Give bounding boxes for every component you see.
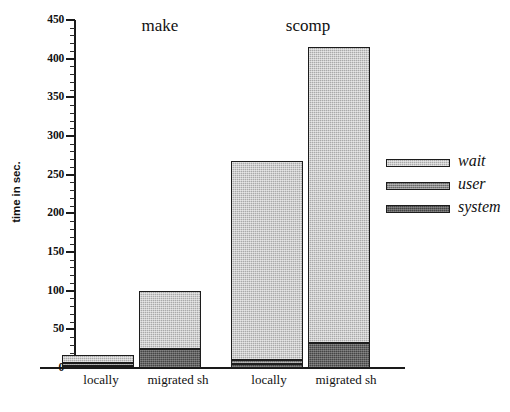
y-tick-major	[66, 96, 75, 98]
legend-label-user: user	[458, 175, 486, 193]
bar-scomp-migrated-sh	[308, 47, 370, 368]
bar-segment-wait	[139, 291, 201, 350]
bar-segment-system	[139, 349, 201, 368]
y-axis-title: time in sec.	[10, 132, 22, 252]
y-tick-label: 100	[34, 284, 64, 296]
bar-scomp-locally	[231, 161, 303, 368]
y-tick-label-wrap: 100	[30, 284, 64, 298]
bar-segment-wait	[62, 355, 134, 364]
y-tick-major	[66, 251, 75, 253]
bar-segment-system	[308, 343, 370, 368]
stacked-bar-chart: time in sec. 450400350300250200150100500…	[0, 0, 510, 412]
y-tick-label-wrap: 0	[30, 361, 64, 375]
y-tick-label-wrap: 250	[30, 168, 64, 182]
y-tick-label: 450	[34, 13, 64, 25]
legend-swatch-wait-icon	[386, 159, 450, 167]
bar-segment-wait	[231, 161, 303, 360]
y-tick-label-wrap: 300	[30, 129, 64, 143]
bar-segment-system	[62, 366, 134, 368]
bar-segment-wait	[308, 47, 370, 343]
bar-segment-user	[62, 363, 134, 365]
y-tick-label: 300	[34, 129, 64, 141]
y-tick-label-wrap: 150	[30, 245, 64, 259]
y-tick-label-wrap: 450	[30, 13, 64, 27]
y-tick-label-wrap: 200	[30, 206, 64, 220]
plot-area	[75, 20, 360, 368]
bar-segment-user	[231, 360, 303, 365]
y-tick-major	[66, 174, 75, 176]
y-tick-major	[66, 135, 75, 137]
legend-label-system: system	[458, 198, 501, 216]
y-tick-label: 350	[34, 90, 64, 102]
y-tick-label: 150	[34, 245, 64, 257]
legend-swatch-system-icon	[386, 205, 450, 213]
x-axis-label-make-locally: locally	[61, 372, 141, 388]
y-tick-label: 0	[34, 361, 64, 373]
y-tick-major	[66, 58, 75, 60]
bar-make-locally	[62, 355, 134, 368]
y-tick-major	[66, 212, 75, 214]
y-tick-label-wrap: 400	[30, 52, 64, 66]
y-tick-label: 400	[34, 52, 64, 64]
y-tick-major	[66, 290, 75, 292]
y-tick-label-wrap: 350	[30, 90, 64, 104]
y-tick-label-wrap: 50	[30, 322, 64, 336]
x-axis-label-make-migrated-sh: migrated sh	[133, 372, 223, 388]
legend-label-wait: wait	[458, 152, 486, 170]
legend-swatch-user-icon	[386, 182, 450, 190]
x-axis-label-scomp-migrated-sh: migrated sh	[301, 372, 391, 388]
y-tick-label: 50	[34, 322, 64, 334]
y-tick-label: 250	[34, 168, 64, 180]
bar-segment-system	[231, 364, 303, 368]
bar-make-migrated-sh	[139, 291, 201, 368]
y-tick-major	[66, 19, 75, 21]
y-tick-label: 200	[34, 206, 64, 218]
y-tick-major	[66, 328, 75, 330]
x-axis-label-scomp-locally: locally	[229, 372, 309, 388]
